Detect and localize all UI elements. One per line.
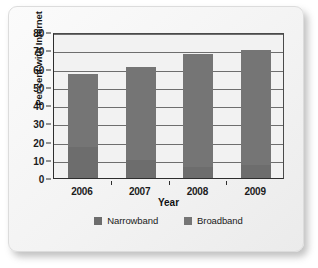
legend-item-broadband[interactable]: Broadband	[184, 215, 243, 226]
legend-label: Broadband	[197, 215, 243, 226]
chart-legend: NarrowbandBroadband	[53, 215, 284, 226]
x-tick-mark	[226, 181, 227, 185]
legend-swatch-icon	[184, 217, 192, 225]
y-axis-title: Per cent with Internet	[33, 0, 44, 134]
bar-group[interactable]	[183, 32, 213, 178]
figure-card: 01020304050607080 Per cent with Internet…	[8, 6, 304, 252]
bar-segment-broadband[interactable]	[183, 54, 213, 167]
bar-segment-broadband[interactable]	[241, 50, 271, 165]
bar-group[interactable]	[241, 32, 271, 178]
x-tick-label: 2006	[71, 186, 92, 197]
y-tick-mark	[46, 51, 51, 52]
y-tick-mark	[46, 160, 51, 161]
bar-segment-broadband[interactable]	[126, 67, 156, 160]
y-tick-label: 0	[39, 174, 44, 185]
bar-segment-narrowband[interactable]	[183, 167, 213, 178]
bar-segment-broadband[interactable]	[68, 74, 98, 147]
x-tick-label: 2007	[129, 186, 150, 197]
bar-segment-narrowband[interactable]	[241, 165, 271, 178]
x-tick-mark	[169, 181, 170, 185]
y-tick-mark	[46, 33, 51, 34]
plot-area	[53, 33, 284, 179]
bar-segment-narrowband[interactable]	[126, 160, 156, 178]
legend-label: Narrowband	[107, 215, 158, 226]
y-axis-ticks: 01020304050607080	[9, 33, 51, 179]
x-axis-title: Year	[53, 197, 284, 208]
y-tick-mark	[46, 179, 51, 180]
bar-group[interactable]	[126, 32, 156, 178]
x-tick-label: 2008	[187, 186, 208, 197]
bar-group[interactable]	[68, 32, 98, 178]
y-tick-mark	[46, 106, 51, 107]
y-tick-mark	[46, 124, 51, 125]
legend-swatch-icon	[94, 217, 102, 225]
y-tick-mark	[46, 87, 51, 88]
legend-item-narrowband[interactable]: Narrowband	[94, 215, 158, 226]
x-tick-mark	[111, 181, 112, 185]
y-tick-label: 20	[33, 137, 44, 148]
bar-segment-narrowband[interactable]	[68, 147, 98, 178]
y-tick-label: 10	[33, 155, 44, 166]
x-tick-label: 2009	[244, 186, 265, 197]
y-tick-mark	[46, 69, 51, 70]
x-axis-ticks: 2006200720082009	[53, 181, 284, 197]
y-tick-mark	[46, 142, 51, 143]
